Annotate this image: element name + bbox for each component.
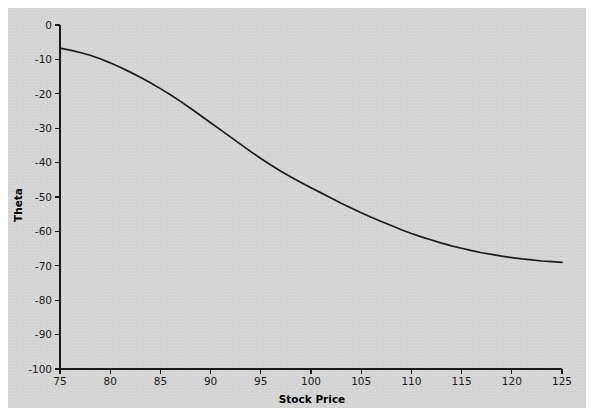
chart-figure: 0-10-20-30-40-50-60-70-80-90-100 7580859… [0, 0, 595, 416]
x-tick-label: 100 [301, 375, 321, 387]
y-axis-title: Theta [12, 188, 24, 222]
x-tick-label: 75 [53, 375, 66, 387]
x-axis: 7580859095100105110115120125 [53, 369, 572, 387]
theta-line [60, 48, 562, 262]
x-tick-label: 85 [154, 375, 167, 387]
x-axis-title: Stock Price [279, 393, 345, 405]
y-tick-label: 0 [45, 19, 52, 31]
x-tick-label: 110 [401, 375, 421, 387]
x-tick-label: 95 [254, 375, 267, 387]
x-tick-label: 105 [351, 375, 371, 387]
y-tick-label: -100 [28, 363, 52, 375]
y-tick-label: -10 [35, 53, 52, 65]
theta-curve [60, 48, 562, 262]
x-tick-label: 125 [552, 375, 572, 387]
y-axis: 0-10-20-30-40-50-60-70-80-90-100 [28, 19, 60, 375]
y-tick-label: -20 [35, 88, 52, 100]
y-tick-label: -40 [35, 156, 52, 168]
y-tick-label: -60 [35, 225, 52, 237]
x-tick-label: 115 [452, 375, 472, 387]
chart-plot-area: 0-10-20-30-40-50-60-70-80-90-100 7580859… [0, 0, 595, 416]
y-tick-label: -70 [35, 260, 52, 272]
x-tick-label: 120 [502, 375, 522, 387]
y-tick-label: -90 [35, 328, 52, 340]
y-tick-label: -80 [35, 294, 52, 306]
x-tick-label: 80 [104, 375, 117, 387]
y-tick-label: -30 [35, 122, 52, 134]
x-tick-label: 90 [204, 375, 217, 387]
y-tick-label: -50 [35, 191, 52, 203]
